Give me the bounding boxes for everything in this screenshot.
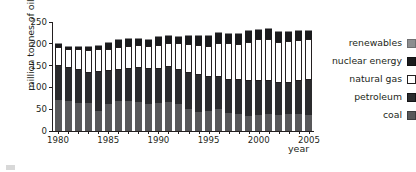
legend-label: coal (383, 110, 402, 120)
y-tick-mark (49, 43, 52, 44)
bar-segment-petroleum (155, 69, 162, 103)
y-tick-label: 250 (31, 17, 47, 27)
bar-segment-nuclear-energy (75, 46, 82, 49)
y-tick-mark (49, 131, 52, 132)
bar-segment-coal (305, 115, 312, 131)
legend-item-nuclear[interactable]: nuclear energy (316, 52, 416, 70)
bar-segment-coal (245, 116, 252, 131)
bar-segment-nuclear-energy (175, 36, 182, 43)
x-tick-mark-1994 (199, 131, 200, 134)
bar-segment-natural-gas (85, 50, 92, 73)
bar-segment-natural-gas (255, 39, 262, 81)
bar-segment-natural-gas (195, 45, 202, 76)
y-tick-mark (49, 87, 52, 88)
bar-1989 (145, 39, 152, 131)
bar-segment-nuclear-energy (275, 32, 282, 42)
bar-2002 (275, 31, 282, 131)
legend-swatch-coal-icon (407, 111, 416, 120)
bar-segment-nuclear-energy (115, 40, 122, 47)
x-tick-mark-1986 (118, 131, 119, 134)
bar-segment-petroleum (245, 81, 252, 116)
x-tick-mark-1999 (249, 131, 250, 134)
x-tick-mark-2001 (269, 131, 270, 134)
bar-segment-coal (135, 102, 142, 131)
legend-item-renewables[interactable]: renewables (316, 34, 416, 52)
bar-1987 (125, 38, 132, 131)
bar-segment-nuclear-energy (85, 46, 92, 50)
bar-segment-natural-gas (115, 47, 122, 69)
bar-1997 (225, 33, 232, 131)
x-tick-mark-1990 (158, 131, 159, 134)
x-tick-mark-1989 (148, 131, 149, 134)
bar-1994 (195, 35, 202, 131)
chart-root: million tonnes of oil equivalent 0501001… (0, 0, 416, 172)
y-tick-label: 200 (31, 39, 47, 49)
legend-item-coal[interactable]: coal (316, 106, 416, 124)
bar-segment-natural-gas (125, 46, 132, 70)
y-tick-mark (49, 22, 52, 23)
bar-segment-natural-gas (285, 41, 292, 83)
x-tick-mark-1987 (128, 131, 129, 134)
legend-label: petroleum (354, 92, 402, 102)
bar-segment-nuclear-energy (225, 34, 232, 44)
legend-swatch-gas-icon (407, 75, 416, 84)
x-tick-mark-1998 (239, 131, 240, 134)
bar-1985 (105, 42, 112, 131)
bar-segment-natural-gas (95, 49, 102, 72)
bar-segment-renewables (245, 30, 252, 31)
bar-segment-natural-gas (245, 42, 252, 81)
x-axis-line (52, 131, 314, 132)
bar-segment-nuclear-energy (255, 29, 262, 39)
bar-segment-natural-gas (55, 47, 62, 66)
y-tick-250: 250 (26, 17, 52, 27)
bar-segment-nuclear-energy (145, 39, 152, 46)
bar-segment-renewables (275, 31, 282, 32)
x-tick-mark-2003 (289, 131, 290, 134)
bar-1998 (235, 33, 242, 131)
chart-legend: renewablesnuclear energynatural gaspetro… (316, 34, 416, 124)
bar-series-group (53, 22, 314, 131)
bar-segment-coal (95, 111, 102, 131)
bar-segment-natural-gas (185, 44, 192, 74)
x-tick-mark-2000 (259, 131, 260, 134)
bar-segment-coal (205, 111, 212, 131)
bar-segment-coal (185, 109, 192, 131)
x-tick-mark-1982 (78, 131, 79, 134)
y-tick-150: 150 (26, 61, 52, 71)
bar-segment-renewables (295, 30, 302, 31)
x-tick-label-1990: 1990 (147, 135, 169, 145)
bar-segment-nuclear-energy (95, 45, 102, 49)
bar-segment-petroleum (285, 83, 292, 114)
x-tick-label-1980: 1980 (47, 135, 69, 145)
bar-2005 (305, 30, 312, 131)
bar-1984 (95, 45, 102, 131)
bar-segment-petroleum (225, 80, 232, 114)
bar-segment-coal (55, 100, 62, 131)
bar-segment-natural-gas (295, 40, 302, 81)
bar-segment-natural-gas (225, 43, 232, 79)
bar-segment-petroleum (275, 83, 282, 115)
bar-1999 (245, 30, 252, 131)
legend-item-gas[interactable]: natural gas (316, 70, 416, 88)
bar-segment-natural-gas (155, 45, 162, 69)
bar-segment-petroleum (295, 81, 302, 114)
bar-segment-petroleum (235, 80, 242, 114)
bar-segment-petroleum (85, 73, 92, 103)
bar-segment-coal (75, 103, 82, 131)
bar-segment-petroleum (305, 80, 312, 115)
bar-segment-nuclear-energy (165, 36, 172, 43)
bar-segment-renewables (265, 28, 272, 29)
bar-segment-nuclear-energy (135, 39, 142, 46)
legend-item-petroleum[interactable]: petroleum (316, 88, 416, 106)
x-axis-title: year (288, 143, 309, 154)
bar-segment-nuclear-energy (205, 36, 212, 46)
bar-segment-nuclear-energy (285, 32, 292, 41)
bar-segment-petroleum (145, 69, 152, 104)
y-tick-100: 100 (26, 82, 52, 92)
bar-segment-coal (275, 115, 282, 131)
bar-segment-nuclear-energy (55, 43, 62, 47)
x-tick-mark-1984 (98, 131, 99, 134)
bar-segment-nuclear-energy (215, 32, 222, 42)
bar-segment-nuclear-energy (195, 35, 202, 45)
bar-1982 (75, 46, 82, 131)
